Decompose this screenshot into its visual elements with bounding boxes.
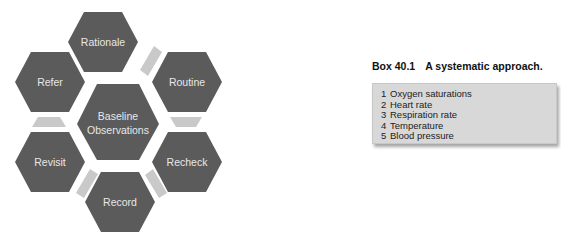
svg-text:Baseline: Baseline <box>98 110 138 122</box>
svg-text:Rationale: Rationale <box>81 36 126 48</box>
box-title: Box 40.1A systematic approach. <box>372 60 543 72</box>
svg-text:Record: Record <box>103 196 137 208</box>
svg-text:Revisit: Revisit <box>34 156 66 168</box>
hexagon-refer: Refer <box>15 52 85 112</box>
connector-routine-recheck <box>170 117 202 127</box>
cycle-diagram: Rationale Routine Recheck Record Revisit… <box>0 0 230 241</box>
box-heading: A systematic approach. <box>425 60 543 72</box>
svg-text:Routine: Routine <box>169 76 205 88</box>
hexagon-record: Record <box>85 172 155 232</box>
box-number: Box 40.1 <box>372 60 415 72</box>
svg-text:Observations: Observations <box>87 124 149 136</box>
hexagon-recheck: Recheck <box>152 132 222 192</box>
connector-revisit-refer <box>32 117 66 127</box>
hexagon-rationale: Rationale <box>68 12 138 72</box>
hexagon-revisit: Revisit <box>15 132 85 192</box>
steps-list: 1Oxygen saturations 2Heart rate 3Respira… <box>373 84 556 142</box>
svg-text:Recheck: Recheck <box>167 156 209 168</box>
svg-text:Refer: Refer <box>37 76 63 88</box>
hexagon-baseline-observations: Baseline Observations <box>77 84 159 160</box>
list-item: 5Blood pressure <box>381 131 556 142</box>
systematic-approach-box: 1Oxygen saturations 2Heart rate 3Respira… <box>372 83 557 144</box>
hexagon-routine: Routine <box>152 52 222 112</box>
